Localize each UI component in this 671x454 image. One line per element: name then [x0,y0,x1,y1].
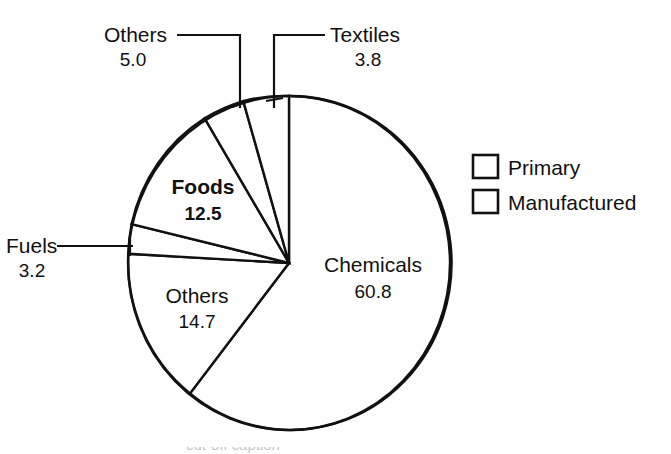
slice-label-others-manufactured-value: 5.0 [120,49,146,70]
leader-line-others-manufactured [177,35,240,108]
legend-swatch-manufactured [473,190,498,213]
slice-label-others-primary-name: Others [165,284,228,307]
slice-label-fuels-name: Fuels [6,234,57,257]
slice-label-fuels: Fuels 3.2 [6,234,57,281]
legend-swatch-primary [473,155,498,178]
legend-label-manufactured: Manufactured [508,191,636,214]
cropped-caption: cut-off caption [0,447,671,454]
slice-label-fuels-value: 3.2 [19,260,45,281]
slice-label-textiles-value: 3.8 [355,49,381,70]
slice-label-foods-name: Foods [172,175,235,198]
legend-label-primary: Primary [508,156,581,179]
slice-label-chemicals-name: Chemicals [324,253,422,276]
pie-chart-figure: Others 5.0 Textiles 3.8 Fuels 3.2 Foods … [0,0,671,454]
legend-item-primary[interactable]: Primary [473,155,581,179]
slice-label-others-manufactured: Others 5.0 [104,23,167,70]
cropped-caption-text: cut-off caption [186,447,280,453]
legend-item-manufactured[interactable]: Manufactured [473,190,636,214]
slice-label-textiles-name: Textiles [330,23,400,46]
slice-label-others-primary-value: 14.7 [179,311,216,332]
slice-label-foods-value: 12.5 [185,203,222,224]
slice-label-others-manufactured-name: Others [104,23,167,46]
chart-legend: Primary Manufactured [473,155,636,214]
slice-label-chemicals-value: 60.8 [355,281,392,302]
slice-label-textiles: Textiles 3.8 [330,23,400,70]
pie-chart-svg: Others 5.0 Textiles 3.8 Fuels 3.2 Foods … [0,0,671,454]
